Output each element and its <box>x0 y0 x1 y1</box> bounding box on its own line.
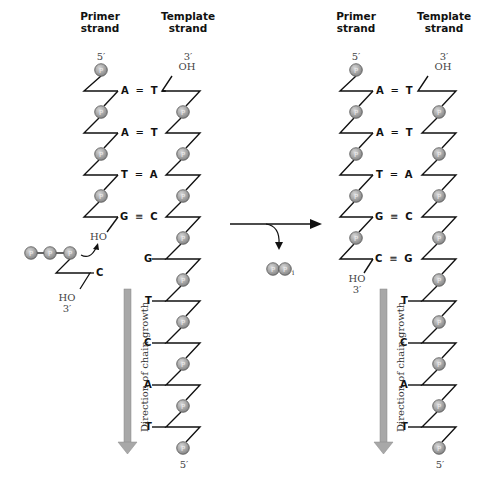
header-line: strand <box>74 22 126 34</box>
incoming-base: C <box>96 268 103 278</box>
primer-base: A <box>121 85 129 96</box>
left-direction-arrow <box>118 289 137 454</box>
template-base: G <box>404 253 412 264</box>
template-base-unpaired: G <box>144 254 152 264</box>
right-primer-strand-label: Primer strand <box>330 10 382 34</box>
header-line: Primer <box>330 10 382 22</box>
header-line: Template <box>158 10 218 22</box>
left-template-strand-label: Template strand <box>158 10 218 34</box>
base-pair-3: T=A <box>121 170 158 180</box>
diagram-graphics: P <box>0 0 485 483</box>
left-template-phosphates <box>177 106 190 455</box>
primer-base: C <box>375 253 382 264</box>
pyrophosphate-subscript: i <box>292 270 294 277</box>
incoming-ho: HO <box>56 293 78 303</box>
right-primer-5prime: 5′ <box>348 52 364 62</box>
template-base: T <box>406 85 413 96</box>
dna-polymerization-diagram: P <box>0 0 485 483</box>
header-line: Primer <box>74 10 126 22</box>
template-base: A <box>405 169 413 180</box>
primer-base: T <box>121 169 128 180</box>
hydrogen-bond: = <box>384 128 406 138</box>
base-pair-4: G≡C <box>375 212 413 222</box>
base-pair-1: A=T <box>376 86 413 96</box>
right-template-phosphates <box>433 106 446 455</box>
right-primer-3prime: 3′ <box>349 285 365 295</box>
incoming-3prime: 3′ <box>58 304 76 314</box>
base-pair-2: A=T <box>121 128 158 138</box>
template-base: A <box>150 169 158 180</box>
right-template-5prime: 5′ <box>433 460 447 470</box>
template-base: T <box>151 127 158 138</box>
right-direction-arrow <box>374 289 393 454</box>
right-template-strand-label: Template strand <box>414 10 474 34</box>
hydrogen-bond: ≡ <box>383 212 405 222</box>
primer-base: A <box>121 127 129 138</box>
left-primer-3prime-ho: HO <box>90 232 107 242</box>
left-template-oh: OH <box>176 62 198 72</box>
left-unpaired-base-ticks <box>152 91 166 427</box>
template-base: T <box>151 85 158 96</box>
hydrogen-bond: = <box>129 128 151 138</box>
hydrogen-bond: = <box>383 170 405 180</box>
right-template-backbone <box>418 76 456 442</box>
template-base: T <box>406 127 413 138</box>
header-line: strand <box>158 22 218 34</box>
right-template-oh: OH <box>432 62 454 72</box>
right-unpaired-base-ticks <box>408 301 422 427</box>
base-pair-1: A=T <box>121 86 158 96</box>
hydrogen-bond: = <box>128 170 150 180</box>
reaction-arrow <box>230 219 322 275</box>
hydrogen-bond: ≡ <box>128 212 150 222</box>
template-base: C <box>405 211 412 222</box>
right-primer-3prime-ho: HO <box>346 274 368 284</box>
header-line: Template <box>414 10 474 22</box>
left-direction-label: Direction of chain growth <box>139 302 150 432</box>
incoming-nucleotide <box>25 243 99 289</box>
primer-base: G <box>375 211 383 222</box>
hydrogen-bond: ≡ <box>382 254 404 264</box>
hydrogen-bond: = <box>384 86 406 96</box>
base-pair-2: A=T <box>376 128 413 138</box>
header-line: strand <box>414 22 474 34</box>
hydrogen-bond: = <box>129 86 151 96</box>
base-pair-5: C≡G <box>375 254 413 264</box>
primer-base: T <box>376 169 383 180</box>
base-pair-4: G≡C <box>120 212 158 222</box>
left-template-backbone <box>162 76 200 442</box>
right-direction-label: Direction of chain growth <box>395 302 406 432</box>
base-pair-3: T=A <box>376 170 413 180</box>
primer-base: A <box>376 85 384 96</box>
primer-base: A <box>376 127 384 138</box>
left-primer-strand-label: Primer strand <box>74 10 126 34</box>
left-template-5prime: 5′ <box>177 460 191 470</box>
header-line: strand <box>330 22 382 34</box>
left-primer-5prime: 5′ <box>93 52 109 62</box>
template-base: C <box>150 211 157 222</box>
primer-base: G <box>120 211 128 222</box>
